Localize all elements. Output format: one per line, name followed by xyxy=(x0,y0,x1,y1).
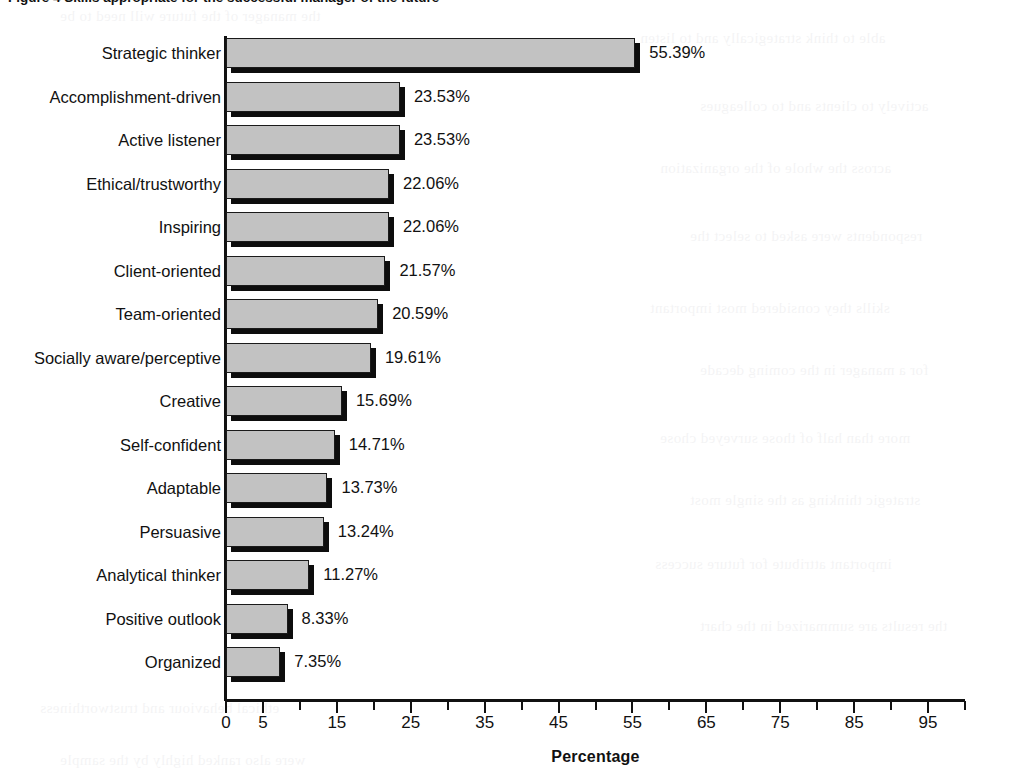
bar xyxy=(226,517,324,547)
bar xyxy=(226,299,378,329)
category-label: Self-confident xyxy=(120,437,221,454)
x-axis-tick-label: 15 xyxy=(327,714,346,731)
bar-row: Active listener23.53% xyxy=(0,125,1027,155)
x-axis-tick-label: 0 xyxy=(221,714,230,731)
bar-fill xyxy=(226,473,327,503)
x-axis-tick xyxy=(447,701,449,710)
x-axis-tick xyxy=(410,701,412,713)
x-axis-tick xyxy=(705,701,707,713)
x-axis-tick-label: 45 xyxy=(549,714,568,731)
bar-value-label: 15.69% xyxy=(356,392,412,409)
category-label: Organized xyxy=(145,654,221,671)
bar-fill xyxy=(226,604,288,634)
category-label: Active listener xyxy=(118,132,221,149)
bar-row: Positive outlook8.33% xyxy=(0,604,1027,634)
bar-fill xyxy=(226,169,389,199)
x-axis-tick xyxy=(668,701,670,710)
bar-fill xyxy=(226,343,371,373)
bar-value-label: 13.24% xyxy=(338,523,394,540)
category-label: Persuasive xyxy=(139,524,221,541)
x-axis-tick-label: 75 xyxy=(771,714,790,731)
figure-caption-text: Figure 4 Skills appropriate for the succ… xyxy=(8,0,808,5)
bar xyxy=(226,386,342,416)
bar xyxy=(226,212,389,242)
bar-value-label: 13.73% xyxy=(341,479,397,496)
bar-row: Inspiring22.06% xyxy=(0,212,1027,242)
bar-fill xyxy=(226,299,378,329)
bar-fill xyxy=(226,38,635,68)
bar-value-label: 19.61% xyxy=(385,349,441,366)
bar-row: Socially aware/perceptive19.61% xyxy=(0,343,1027,373)
category-label: Positive outlook xyxy=(105,611,221,628)
x-axis-tick xyxy=(631,701,633,713)
bar-row: Persuasive13.24% xyxy=(0,517,1027,547)
bar xyxy=(226,647,280,677)
bar-value-label: 55.39% xyxy=(649,44,705,61)
x-axis-tick xyxy=(336,701,338,713)
bar-value-label: 8.33% xyxy=(302,610,349,627)
bar xyxy=(226,82,400,112)
x-axis-tick xyxy=(373,701,375,710)
category-label: Inspiring xyxy=(159,219,221,236)
category-label: Accomplishment-driven xyxy=(50,89,221,106)
bar-fill xyxy=(226,82,400,112)
bar-value-label: 11.27% xyxy=(323,566,378,583)
x-axis-tick-label: 35 xyxy=(475,714,494,731)
x-axis-tick-label: 25 xyxy=(401,714,420,731)
x-axis-tick xyxy=(779,701,781,713)
bar-row: Adaptable13.73% xyxy=(0,473,1027,503)
bar xyxy=(226,38,635,68)
x-axis-tick xyxy=(262,701,264,713)
x-axis-tick xyxy=(558,701,560,713)
category-label: Strategic thinker xyxy=(102,45,221,62)
bar-row: Organized7.35% xyxy=(0,647,1027,677)
bar-value-label: 14.71% xyxy=(349,436,405,453)
category-label: Adaptable xyxy=(147,480,221,497)
x-axis-tick xyxy=(484,701,486,713)
bar xyxy=(226,604,288,634)
bar-row: Client-oriented21.57% xyxy=(0,256,1027,286)
horizontal-bar-chart: Strategic thinker55.39%Accomplishment-dr… xyxy=(0,0,1027,781)
bar-value-label: 21.57% xyxy=(399,262,455,279)
x-axis-tick-label: 85 xyxy=(845,714,864,731)
x-axis-tick xyxy=(816,701,818,710)
x-axis-tick xyxy=(927,701,929,713)
category-label: Ethical/trustworthy xyxy=(86,176,221,193)
x-axis-tick-label: 95 xyxy=(919,714,938,731)
bar-fill xyxy=(226,256,385,286)
category-label: Team-oriented xyxy=(116,306,221,323)
bar-value-label: 22.06% xyxy=(403,218,459,235)
bar xyxy=(226,560,309,590)
bar-value-label: 20.59% xyxy=(392,305,448,322)
figure-caption: Figure 4 Skills appropriate for the succ… xyxy=(8,0,808,5)
bar xyxy=(226,256,385,286)
category-label: Socially aware/perceptive xyxy=(34,350,221,367)
bar-fill xyxy=(226,386,342,416)
x-axis-tick xyxy=(595,701,597,710)
bar-row: Accomplishment-driven23.53% xyxy=(0,82,1027,112)
x-axis-tick xyxy=(853,701,855,713)
bar-fill xyxy=(226,125,400,155)
bar-row: Analytical thinker11.27% xyxy=(0,560,1027,590)
bar-value-label: 7.35% xyxy=(294,653,341,670)
bar-row: Strategic thinker55.39% xyxy=(0,38,1027,68)
bar xyxy=(226,169,389,199)
bar xyxy=(226,343,371,373)
x-axis-tick xyxy=(299,701,301,710)
bar xyxy=(226,125,400,155)
category-label: Analytical thinker xyxy=(96,567,221,584)
bar-row: Self-confident14.71% xyxy=(0,430,1027,460)
bar xyxy=(226,430,335,460)
bar-value-label: 22.06% xyxy=(403,175,459,192)
x-axis-tick xyxy=(225,701,227,713)
bar xyxy=(226,473,327,503)
x-axis-tick xyxy=(964,701,966,710)
bar-fill xyxy=(226,430,335,460)
bar-fill xyxy=(226,560,309,590)
x-axis-tick-label: 5 xyxy=(258,714,267,731)
bar-row: Creative15.69% xyxy=(0,386,1027,416)
bar-fill xyxy=(226,647,280,677)
x-axis-tick-label: 55 xyxy=(623,714,642,731)
bar-fill xyxy=(226,517,324,547)
x-axis-tick xyxy=(521,701,523,710)
